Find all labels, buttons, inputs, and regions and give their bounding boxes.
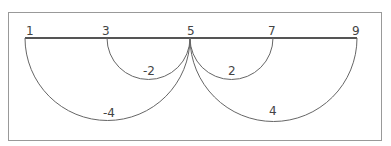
point-label: 1 [26,24,34,38]
point-label: 7 [268,24,276,38]
arc-label: 2 [228,64,236,78]
point-label: 5 [187,24,195,38]
arc-label: 4 [269,104,277,118]
diagram-border [9,13,382,141]
point-label: 9 [352,24,360,38]
point-label: 3 [102,24,110,38]
arc-label: -4 [103,106,115,120]
arc-label: -2 [143,64,155,78]
number-line-diagram: 1 3 5 7 9 -4 -2 2 4 [0,0,391,146]
